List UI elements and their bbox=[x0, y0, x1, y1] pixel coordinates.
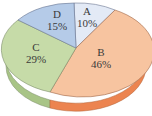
label-b: B46% bbox=[86, 46, 116, 70]
label-d: D15% bbox=[42, 8, 72, 32]
label-a: A10% bbox=[72, 5, 102, 29]
label-c: C29% bbox=[21, 41, 51, 65]
